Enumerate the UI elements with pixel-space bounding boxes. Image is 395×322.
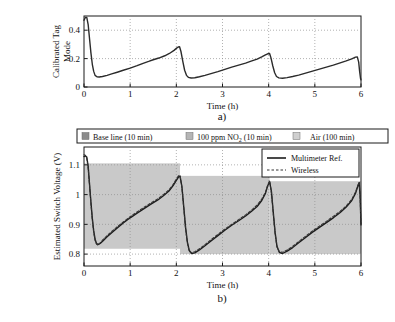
panel_b-xticklabel-6: 6 [359,268,364,278]
panel_b-shaded-band-2 [270,181,361,254]
phase-legend-label-1: 100 ppm NO2 (10 min) [197,133,272,143]
panel_a-xticklabel-3: 3 [220,89,225,99]
yaxis-label-line-2: Mode [62,41,72,62]
panel_a-xticklabel-6: 6 [359,89,364,99]
panel_b-xticklabel-0: 0 [82,268,87,278]
phase-legend-swatch-0 [82,133,89,140]
yaxis-label-line-1: Calibrated Tag [51,25,61,78]
figure-container: 012345600.20.4Time (h)Calibrated TagMode… [0,0,395,322]
panel_b-xticklabel-2: 2 [174,268,179,278]
phase-legend-label-0: Base line (10 min) [93,133,153,142]
panel_a-xticklabel-1: 1 [128,89,133,99]
phase-legend-swatch-2 [293,133,300,140]
panel_a-series-calibrated-tag-mode [84,17,361,79]
panel_a-yticklabel-2: 0.4 [69,25,81,35]
panel_b-shaded-band-0 [84,163,180,248]
panel_b-shaded-band-1 [180,176,270,254]
phase-legend: Base line (10 min)100 ppm NO2 (10 min)Ai… [77,129,388,143]
panel-b-label: b) [217,292,227,305]
panel_b-xticklabel-3: 3 [220,268,225,278]
panel_b-xticklabel-5: 5 [313,268,318,278]
panel_a-xticklabel-0: 0 [82,89,87,99]
phase-legend-label-post-1: (10 min) [242,133,272,142]
panel_b-xticklabel-4: 4 [266,268,271,278]
panel_a-xticklabel-5: 5 [313,89,318,99]
panel_a-yticklabel-0: 0 [76,82,81,92]
panel_b-yticklabel-3: 1.1 [69,160,80,170]
panel_b-yticklabel-0: 0.8 [69,249,81,259]
panel_b-yticklabel-2: 1 [76,190,81,200]
phase-legend-label-pre-1: 100 ppm NO [197,133,239,142]
panel_b-yticklabel-1: 0.9 [69,220,81,230]
figure-svg: 012345600.20.4Time (h)Calibrated TagMode… [0,0,395,322]
phase-legend-label-2: Air (100 min) [310,133,355,142]
series-legend-label-wireless: Wireless [291,166,319,175]
panel-a-label: a) [218,110,227,123]
panel_a-group: 012345600.20.4Time (h)Calibrated TagMode [51,16,364,111]
phase-legend-swatch-1 [186,133,193,140]
panel_b-xaxis-label: Time (h) [207,280,238,290]
panel_b-xticklabel-1: 1 [128,268,133,278]
panel_b-yaxis-label: Estimated Switch Voltage (V) [52,153,62,260]
series-legend: Multimeter Ref.Wireless [262,149,359,177]
panel_a-xticklabel-4: 4 [266,89,271,99]
series-legend-label-multimeter: Multimeter Ref. [291,154,343,163]
panel_a-xticklabel-2: 2 [174,89,179,99]
